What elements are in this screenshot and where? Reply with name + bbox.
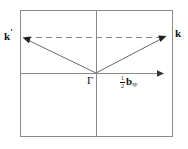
reciprocal-space-diagram <box>0 0 188 149</box>
label-k-symbol: k <box>175 27 181 39</box>
fraction-numerator: 1 <box>120 75 125 81</box>
horizontal-axis-arrowhead <box>157 70 164 76</box>
k-prime-arrowhead <box>23 37 31 44</box>
k-vector-line <box>96 38 162 73</box>
fraction-one-half: 1 2 <box>120 75 125 89</box>
fraction-denominator: 2 <box>120 83 125 89</box>
k-prime-vector-line <box>27 40 96 73</box>
k-arrowhead <box>158 36 166 43</box>
label-gamma-point: Γ <box>87 75 93 86</box>
b-vector-subscript: xy <box>132 81 137 87</box>
label-k-prime-mark: ' <box>10 27 13 37</box>
figure-container: k' k Γ 1 2 bxy <box>0 0 188 149</box>
label-k: k <box>175 28 181 39</box>
label-half-b-xy: 1 2 bxy <box>120 74 137 88</box>
label-k-prime: k' <box>4 28 13 42</box>
